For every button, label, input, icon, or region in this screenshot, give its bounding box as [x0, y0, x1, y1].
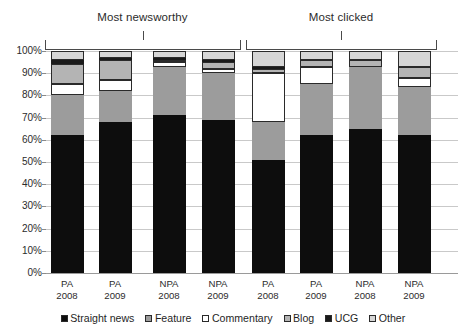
x-axis-label-line: 2009 [388, 290, 440, 302]
x-axis-label-line: NPA [339, 278, 391, 290]
bar-segment-straight-news[interactable] [300, 135, 333, 273]
bar-segment-commentary[interactable] [202, 69, 235, 73]
x-axis-label-line: 2008 [339, 290, 391, 302]
y-tick-mark [42, 51, 46, 52]
bar-segment-straight-news[interactable] [99, 122, 132, 273]
chart-legend: Straight newsFeatureCommentaryBlogUCGOth… [0, 312, 466, 324]
bar-segment-blog[interactable] [252, 69, 285, 73]
bar-segment-blog[interactable] [153, 60, 186, 62]
bar-segment-commentary[interactable] [398, 78, 431, 87]
bar-segment-commentary[interactable] [252, 73, 285, 122]
bar-segment-feature[interactable] [153, 67, 186, 116]
bar-segment-other[interactable] [202, 51, 235, 60]
legend-item-commentary[interactable]: Commentary [202, 312, 272, 324]
bar-segment-feature[interactable] [51, 95, 84, 135]
bar-segment-straight-news[interactable] [349, 129, 382, 273]
bar-segment-blog[interactable] [99, 60, 132, 80]
legend-item-ucg[interactable]: UCG [325, 312, 358, 324]
bar-segment-commentary[interactable] [99, 80, 132, 91]
bar-4[interactable] [252, 51, 285, 273]
y-axis-label-30: 30% [2, 201, 42, 211]
x-axis-label-line: 2009 [89, 290, 141, 302]
y-axis-label-20: 20% [2, 224, 42, 234]
bar-segment-commentary[interactable] [153, 62, 186, 66]
y-tick-mark [42, 206, 46, 207]
y-tick-mark [42, 73, 46, 74]
x-axis-label-line: PA [290, 278, 342, 290]
bar-segment-ucg[interactable] [99, 58, 132, 60]
bar-7[interactable] [398, 51, 431, 273]
bar-segment-feature[interactable] [252, 122, 285, 160]
x-axis-label-line: PA [242, 278, 294, 290]
bar-2[interactable] [153, 51, 186, 273]
x-axis-label-4: PA2008 [242, 278, 294, 301]
y-tick-mark [42, 184, 46, 185]
bar-6[interactable] [349, 51, 382, 273]
group-bracket-most-clicked [246, 40, 437, 50]
plot-area: 100%90%80%70%60%50%40%30%20%10%0% [46, 51, 458, 273]
bracket-stem [341, 31, 342, 40]
bar-segment-ucg[interactable] [202, 60, 235, 62]
x-axis-label-line: PA [89, 278, 141, 290]
bar-segment-ucg[interactable] [51, 60, 84, 64]
y-tick-mark [42, 118, 46, 119]
bar-segment-feature[interactable] [202, 73, 235, 120]
legend-swatch-icon [325, 315, 332, 322]
y-tick-mark [42, 273, 46, 274]
bar-segment-straight-news[interactable] [153, 115, 186, 273]
legend-label: Other [379, 312, 406, 324]
bar-segment-feature[interactable] [398, 87, 431, 136]
bar-segment-other[interactable] [300, 51, 333, 60]
legend-item-other[interactable]: Other [369, 312, 405, 324]
x-axis-label-line: 2008 [242, 290, 294, 302]
bar-segment-blog[interactable] [349, 60, 382, 67]
bar-segment-other[interactable] [153, 51, 186, 58]
bar-segment-ucg[interactable] [252, 67, 285, 69]
bar-segment-commentary[interactable] [300, 67, 333, 85]
bar-segment-other[interactable] [349, 51, 382, 60]
bar-segment-other[interactable] [252, 51, 285, 67]
legend-swatch-icon [284, 315, 291, 322]
bar-segment-straight-news[interactable] [51, 135, 84, 273]
x-axis-label-6: NPA2008 [339, 278, 391, 301]
bar-segment-blog[interactable] [398, 67, 431, 78]
stacked-bar-chart: Most newsworthy Most clicked 100%90%80%7… [0, 0, 466, 336]
bar-segment-blog[interactable] [51, 64, 84, 84]
x-axis-label-line: 2008 [41, 290, 93, 302]
legend-item-feature[interactable]: Feature [145, 312, 191, 324]
bar-segment-straight-news[interactable] [202, 120, 235, 273]
legend-label: Straight news [70, 312, 134, 324]
legend-swatch-icon [145, 315, 152, 322]
x-axis-label-line: NPA [192, 278, 244, 290]
bar-segment-feature[interactable] [300, 84, 333, 135]
y-axis-label-0: 0% [2, 268, 42, 278]
group-label-most-newsworthy: Most newsworthy [45, 11, 241, 23]
legend-item-blog[interactable]: Blog [284, 312, 315, 324]
bar-segment-other[interactable] [99, 51, 132, 58]
y-tick-mark [42, 162, 46, 163]
group-label-most-clicked: Most clicked [246, 11, 437, 23]
bar-segment-other[interactable] [398, 51, 431, 67]
bar-segment-feature[interactable] [99, 91, 132, 122]
x-axis-label-1: PA2009 [89, 278, 141, 301]
bar-1[interactable] [99, 51, 132, 273]
bar-segment-blog[interactable] [202, 62, 235, 69]
y-axis-label-60: 60% [2, 135, 42, 145]
bar-0[interactable] [51, 51, 84, 273]
bar-segment-straight-news[interactable] [252, 160, 285, 273]
gridline-0 [46, 273, 458, 274]
x-axis-label-line: 2008 [143, 290, 195, 302]
bar-5[interactable] [300, 51, 333, 273]
x-axis-label-line: NPA [388, 278, 440, 290]
y-axis-label-100: 100% [2, 46, 42, 56]
bar-segment-feature[interactable] [349, 67, 382, 129]
bar-segment-other[interactable] [51, 51, 84, 60]
bar-segment-commentary[interactable] [51, 84, 84, 95]
bar-segment-straight-news[interactable] [398, 135, 431, 273]
legend-item-straight-news[interactable]: Straight news [61, 312, 135, 324]
y-axis-label-10: 10% [2, 246, 42, 256]
group-bracket-most-newsworthy [45, 40, 241, 50]
bar-3[interactable] [202, 51, 235, 273]
bar-segment-blog[interactable] [300, 60, 333, 67]
bar-segment-ucg[interactable] [153, 58, 186, 60]
